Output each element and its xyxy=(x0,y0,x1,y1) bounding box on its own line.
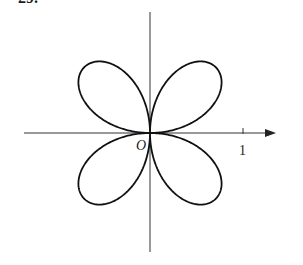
x-tick-label: 1 xyxy=(239,143,246,158)
origin-label: O xyxy=(136,138,146,153)
figure-canvas: 29. O 1 xyxy=(0,0,303,265)
rose-curve-diagram: O 1 xyxy=(0,0,303,265)
x-axis-arrow-icon xyxy=(265,129,276,137)
